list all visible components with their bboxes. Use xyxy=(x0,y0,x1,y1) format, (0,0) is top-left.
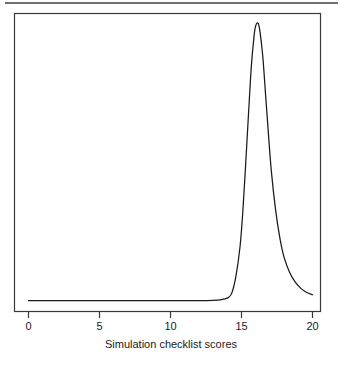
x-axis-title: Simulation checklist scores xyxy=(0,338,342,350)
x-tick-label-5: 5 xyxy=(85,320,115,333)
x-tick-label-15: 15 xyxy=(227,320,257,333)
density-curve xyxy=(29,23,313,301)
x-tick-label-0: 0 xyxy=(14,320,44,333)
plot-canvas xyxy=(0,0,342,367)
x-tick-label-10: 10 xyxy=(156,320,186,333)
plot-frame-box xyxy=(15,14,321,312)
x-tick-label-20: 20 xyxy=(298,320,328,333)
density-plot-figure: 0 5 10 15 20 Simulation checklist scores xyxy=(0,0,342,367)
